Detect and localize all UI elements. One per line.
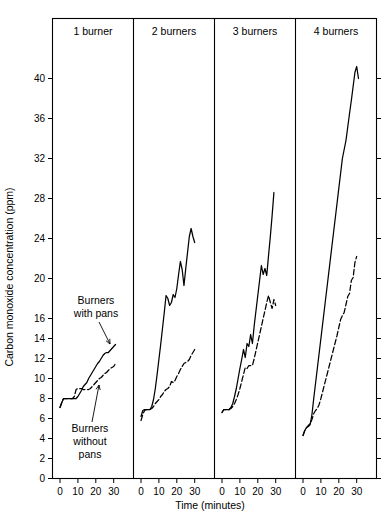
y-tick-label: 28 xyxy=(34,193,46,204)
y-tick-label: 0 xyxy=(39,473,45,484)
y-tick-label: 20 xyxy=(34,273,46,284)
y-tick-label: 8 xyxy=(39,393,45,404)
chart-background xyxy=(0,0,386,516)
x-tick-label: 20 xyxy=(171,486,183,497)
y-tick-label: 24 xyxy=(34,233,46,244)
x-tick-label: 0 xyxy=(138,486,144,497)
x-tick-label: 20 xyxy=(333,486,345,497)
x-tick-label: 10 xyxy=(72,486,84,497)
y-tick-label: 2 xyxy=(39,453,45,464)
x-tick-label: 30 xyxy=(189,486,201,497)
chart-figure: 0246810121416202428323640 01020300102030… xyxy=(0,0,386,516)
x-tick-label: 0 xyxy=(219,486,225,497)
x-tick-label: 30 xyxy=(351,486,363,497)
panel-title-2: 2 burners xyxy=(152,25,196,37)
y-tick-label: 40 xyxy=(34,73,46,84)
x-axis-title: Time (minutes) xyxy=(175,499,245,511)
y-tick-label: 4 xyxy=(39,433,45,444)
x-tick-label: 10 xyxy=(234,486,246,497)
y-tick-label: 12 xyxy=(34,353,46,364)
y-axis-title: Carbon monoxide concentration (ppm) xyxy=(3,187,15,366)
y-tick-label: 32 xyxy=(34,153,46,164)
y-tick-label: 6 xyxy=(39,413,45,424)
panel-title-3: 3 burners xyxy=(233,25,277,37)
y-tick-label: 14 xyxy=(34,333,46,344)
panel-title-1: 1 burner xyxy=(73,25,113,37)
annotation-burners-with-pans-line2: with pans xyxy=(73,307,118,319)
x-tick-label: 0 xyxy=(300,486,306,497)
annotation-burners-with-pans-line1: Burners xyxy=(78,294,115,306)
x-tick-label: 20 xyxy=(90,486,102,497)
x-tick-label: 10 xyxy=(315,486,327,497)
multi-panel-line-chart: 0246810121416202428323640 01020300102030… xyxy=(0,0,386,516)
annotation-burners-without-pans-line3: pans xyxy=(79,448,102,460)
x-tick-label: 0 xyxy=(57,486,63,497)
x-tick-label: 30 xyxy=(270,486,282,497)
annotation-burners-without-pans-line1: Burners xyxy=(72,422,109,434)
x-tick-label: 10 xyxy=(153,486,165,497)
panel-title-4: 4 burners xyxy=(314,25,358,37)
y-tick-label: 16 xyxy=(34,313,46,324)
y-tick-label: 36 xyxy=(34,113,46,124)
y-tick-label: 10 xyxy=(34,373,46,384)
x-tick-label: 30 xyxy=(108,486,120,497)
annotation-burners-without-pans-line2: without xyxy=(72,435,106,447)
x-tick-label: 20 xyxy=(252,486,264,497)
